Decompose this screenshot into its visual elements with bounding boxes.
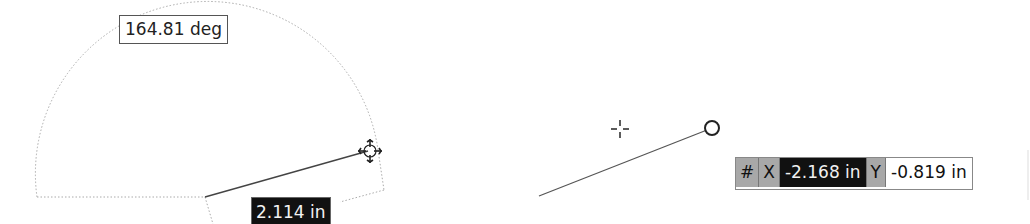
x-coordinate-input[interactable]: -2.168 in — [780, 158, 867, 187]
length-dimension-input[interactable]: 2.114 in — [251, 197, 331, 224]
sketch-line[interactable] — [205, 151, 368, 197]
dimension-extension-line — [378, 150, 384, 190]
x-label: X — [759, 158, 780, 187]
angle-dimension-label[interactable]: 164.81 deg — [119, 15, 228, 44]
crosshair-cursor-icon — [611, 120, 629, 138]
coordinate-input-box: # X -2.168 in Y -0.819 in — [735, 157, 973, 190]
move-cursor-icon — [358, 139, 382, 163]
y-label: Y — [867, 158, 886, 187]
absolute-coordinate-toggle[interactable]: # — [736, 158, 759, 187]
y-coordinate-input[interactable]: -0.819 in — [886, 158, 972, 187]
endpoint-marker-icon[interactable] — [705, 121, 719, 135]
dimension-extension-line — [205, 197, 213, 224]
sketch-line-preview[interactable] — [539, 130, 707, 196]
dimension-line — [340, 190, 384, 202]
